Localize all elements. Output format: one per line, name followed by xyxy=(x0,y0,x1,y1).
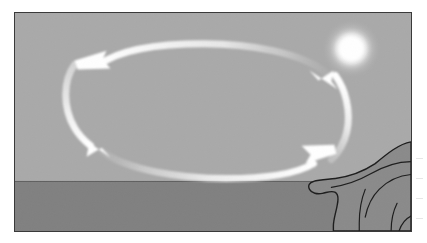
margin-marks xyxy=(414,152,427,230)
illustration-canvas xyxy=(15,13,411,231)
margin-mark xyxy=(416,178,423,179)
figure-root xyxy=(0,0,427,243)
paper-grain xyxy=(15,13,411,231)
margin-mark xyxy=(416,218,423,219)
margin-mark xyxy=(416,158,423,159)
illustration-frame xyxy=(14,12,412,232)
margin-mark xyxy=(416,198,423,199)
